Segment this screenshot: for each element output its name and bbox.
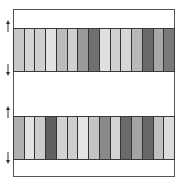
stripe: [57, 117, 68, 159]
up-arrow-icon: [4, 106, 12, 118]
stripe: [143, 29, 154, 71]
stripe: [57, 29, 68, 71]
stripe: [35, 117, 46, 159]
stripe: [164, 29, 174, 71]
stripe: [46, 117, 57, 159]
stripe: [121, 29, 132, 71]
stripe: [68, 29, 79, 71]
stripe: [143, 117, 154, 159]
stripe: [154, 29, 165, 71]
stripe: [100, 117, 111, 159]
stripe: [111, 117, 122, 159]
down-arrow-icon: [4, 152, 12, 164]
stripe-band-top: [13, 28, 175, 72]
stripe: [89, 117, 100, 159]
stripe: [132, 29, 143, 71]
up-arrow-icon: [4, 20, 12, 32]
stripe: [78, 29, 89, 71]
stripe: [164, 117, 174, 159]
stripe: [78, 117, 89, 159]
stripe: [14, 117, 25, 159]
stripe: [100, 29, 111, 71]
down-arrow-icon: [4, 64, 12, 76]
stripe: [68, 117, 79, 159]
stripe: [46, 29, 57, 71]
stripe: [121, 117, 132, 159]
stripe: [25, 117, 36, 159]
stripe: [89, 29, 100, 71]
stripe: [111, 29, 122, 71]
stripe-band-bottom: [13, 116, 175, 160]
stripe: [35, 29, 46, 71]
stripe: [154, 117, 165, 159]
stripe: [132, 117, 143, 159]
stripe: [25, 29, 36, 71]
stripe: [14, 29, 25, 71]
